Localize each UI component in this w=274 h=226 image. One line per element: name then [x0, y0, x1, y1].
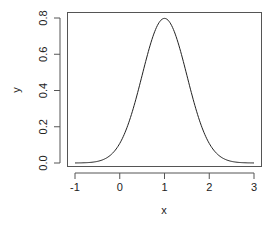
x-axis: -10123 [70, 173, 257, 193]
y-tick-label: 0.6 [37, 47, 49, 62]
y-axis: 0.00.20.40.60.8 [37, 10, 60, 170]
y-tick-label: 0.8 [37, 10, 49, 25]
x-tick-label: 0 [117, 181, 123, 193]
x-tick-label: 3 [251, 181, 257, 193]
x-axis-label: x [161, 204, 167, 216]
plot-box [68, 13, 262, 167]
chart: 0.00.20.40.60.8 -10123 x y [0, 0, 274, 226]
x-tick-label: 1 [161, 181, 167, 193]
x-tick-label: 2 [206, 181, 212, 193]
y-tick-label: 0.2 [37, 119, 49, 134]
x-tick-label: -1 [70, 181, 80, 193]
density-curve [75, 18, 254, 163]
y-tick-label: 0.0 [37, 155, 49, 170]
y-axis-label: y [10, 87, 22, 93]
y-tick-label: 0.4 [37, 83, 49, 98]
